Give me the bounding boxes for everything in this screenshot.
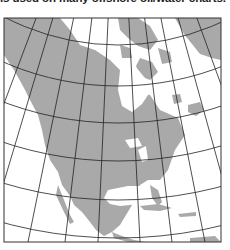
north-america-conic-map [0, 0, 230, 250]
